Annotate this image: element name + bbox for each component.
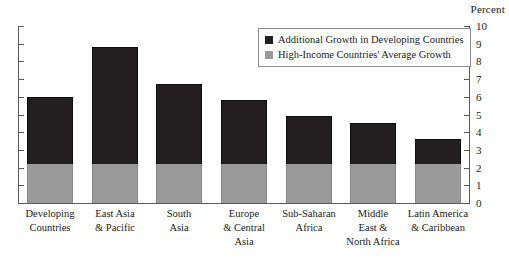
y-axis-tick-label: 3 [476, 145, 496, 156]
y-axis-tick-label: 2 [476, 163, 496, 174]
bar-segment-additional-growth [92, 47, 138, 164]
bar-segment-high-income-growth [221, 164, 267, 203]
x-axis-category-label: Latin America& Caribbean [395, 207, 481, 235]
y-axis-tick-label: 9 [476, 39, 496, 50]
bar-group [286, 116, 332, 203]
y-axis-tick-left [19, 61, 24, 62]
y-axis-tick-label: 1 [476, 180, 496, 191]
legend-label-additional-growth: Additional Growth in Developing Countrie… [278, 33, 463, 46]
bar-group [221, 100, 267, 203]
y-axis-tick-right [464, 97, 469, 98]
y-axis-tick-right [464, 203, 469, 204]
dark-square-icon [265, 36, 273, 44]
y-axis-tick-right [464, 150, 469, 151]
y-axis-tick-left [19, 26, 24, 27]
bar-segment-high-income-growth [415, 164, 461, 203]
bar-group [415, 139, 461, 203]
bar-segment-additional-growth [156, 84, 202, 164]
bar-group [27, 97, 73, 203]
chart-legend: Additional Growth in Developing Countrie… [258, 28, 471, 67]
bar-segment-additional-growth [286, 116, 332, 164]
bar-segment-high-income-growth [156, 164, 202, 203]
legend-item-high-income-growth: High-Income Countries' Average Growth [265, 48, 463, 61]
legend-label-high-income-growth: High-Income Countries' Average Growth [278, 48, 451, 61]
y-axis-unit-caption: Percent [471, 3, 505, 15]
bar-group [350, 123, 396, 203]
y-axis-tick-left [19, 168, 24, 169]
y-axis-tick-right [464, 26, 469, 27]
y-axis-tick-left [19, 115, 24, 116]
bar-segment-high-income-growth [286, 164, 332, 203]
bar-group [92, 47, 138, 203]
bar-segment-additional-growth [221, 100, 267, 164]
y-axis-tick-right [464, 132, 469, 133]
y-axis-tick-left [19, 132, 24, 133]
growth-stacked-bar-chart: Percent 012345678910 Additional Growth i… [0, 0, 509, 267]
y-axis-tick-left [19, 44, 24, 45]
y-axis-tick-left [19, 203, 24, 204]
y-axis-tick-right [464, 168, 469, 169]
legend-item-additional-growth: Additional Growth in Developing Countrie… [265, 33, 463, 46]
y-axis-tick-left [19, 150, 24, 151]
bar-segment-additional-growth [350, 123, 396, 164]
y-axis-tick-left [19, 185, 24, 186]
x-axis-category-label-line: North Africa [330, 235, 416, 249]
y-axis-tick-label: 10 [476, 21, 496, 32]
bar-segment-high-income-growth [92, 164, 138, 203]
y-axis-tick-left [19, 97, 24, 98]
y-axis-tick-right [464, 79, 469, 80]
bar-group [156, 84, 202, 203]
bar-segment-high-income-growth [350, 164, 396, 203]
bar-segment-high-income-growth [27, 164, 73, 203]
x-axis-category-labels: DevelopingCountriesEast Asia& PacificSou… [18, 207, 470, 265]
x-axis-baseline [18, 203, 470, 204]
y-axis-tick-label: 6 [476, 92, 496, 103]
y-axis-tick-label: 5 [476, 110, 496, 121]
x-axis-category-label-line: Latin America [395, 207, 481, 221]
x-axis-category-label-line: & Caribbean [395, 221, 481, 235]
y-axis-tick-left [19, 79, 24, 80]
bar-segment-additional-growth [415, 139, 461, 164]
x-axis-category-label-line: Asia [201, 235, 287, 249]
y-axis-tick-label: 7 [476, 74, 496, 85]
y-axis-tick-right [464, 185, 469, 186]
y-axis-tick-label: 8 [476, 56, 496, 67]
bar-segment-additional-growth [27, 97, 73, 164]
y-axis-tick-right [464, 115, 469, 116]
gray-square-icon [265, 51, 273, 59]
y-axis-tick-label: 4 [476, 127, 496, 138]
